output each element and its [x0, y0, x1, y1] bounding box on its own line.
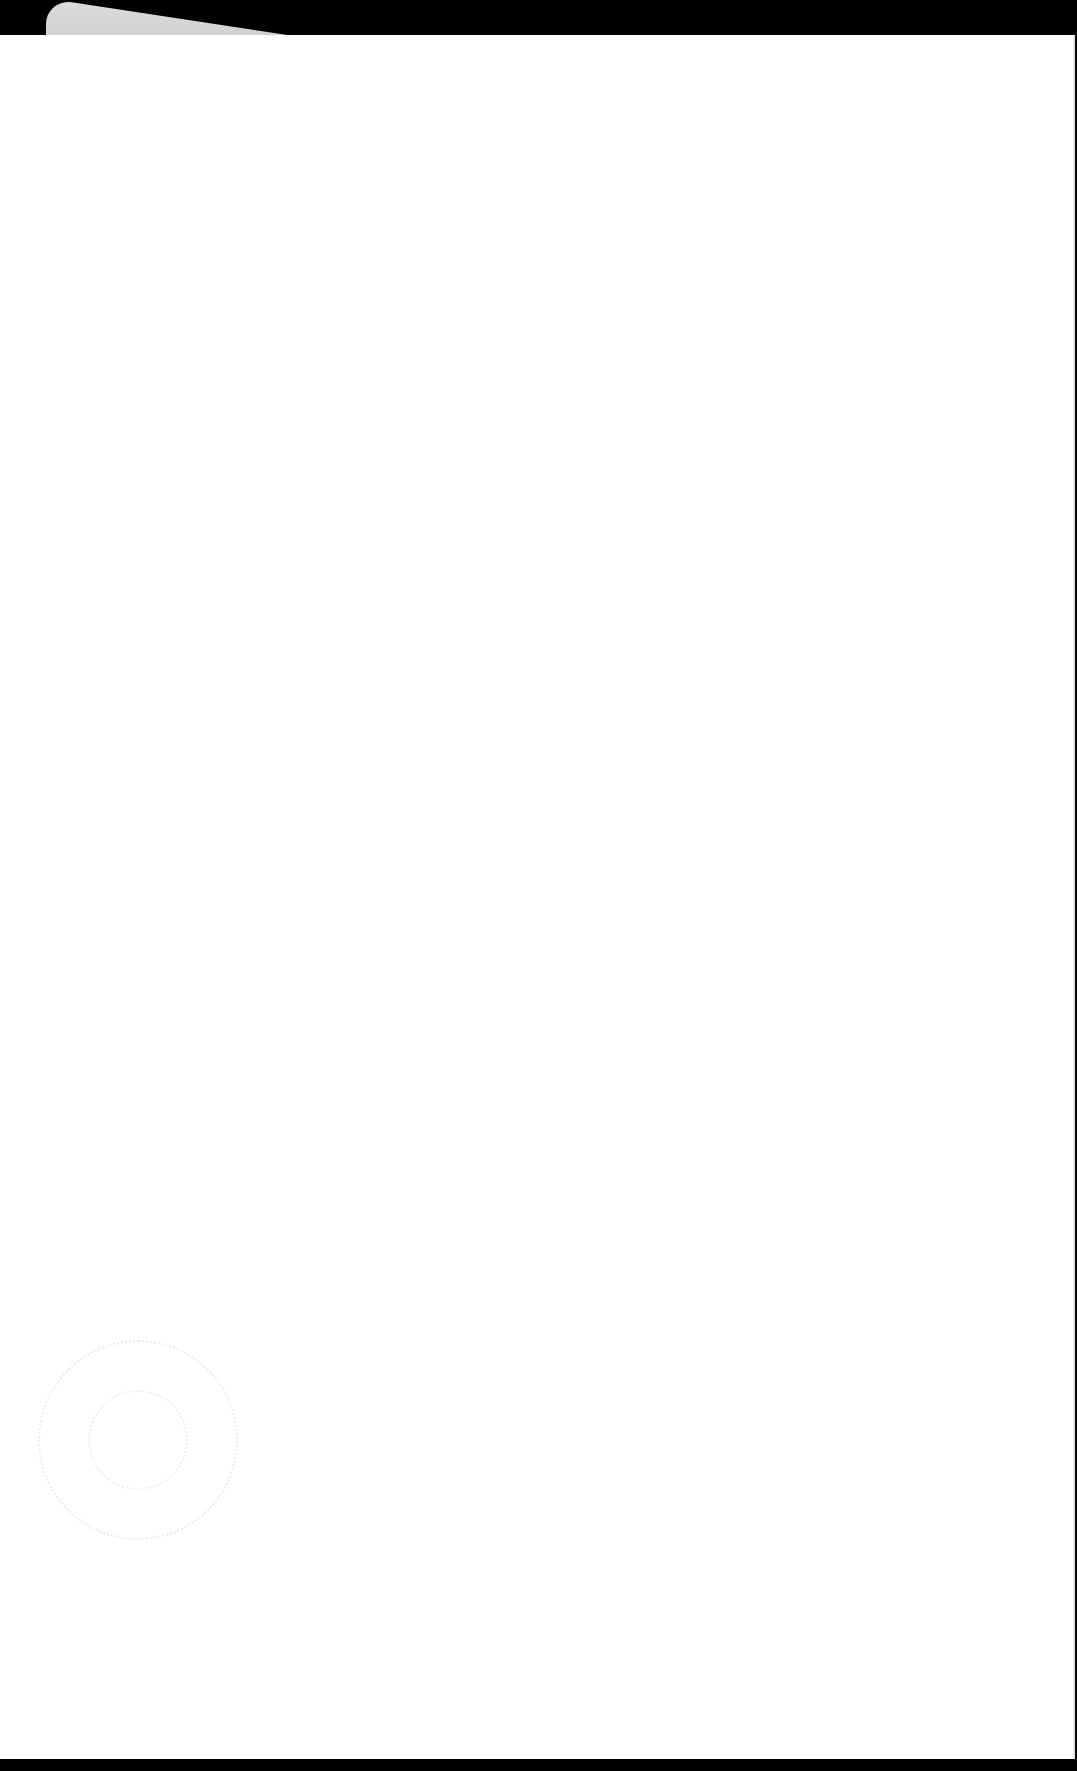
stamp-inner-ring [88, 1390, 188, 1490]
stamp-mark [38, 1340, 238, 1540]
document-page [0, 35, 1075, 1759]
